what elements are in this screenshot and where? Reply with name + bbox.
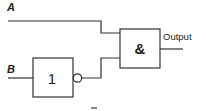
logic-diagram: A B 1 & Output [0, 0, 206, 111]
input-b-label: B [7, 63, 15, 75]
and-gate-symbol: & [135, 40, 146, 57]
inversion-bubble [73, 74, 81, 82]
input-a-label: A [6, 1, 15, 13]
output-label: Output [163, 31, 192, 42]
not-gate-symbol: 1 [48, 70, 56, 87]
wire-a [8, 21, 120, 33]
wire-not-to-and [82, 58, 120, 78]
